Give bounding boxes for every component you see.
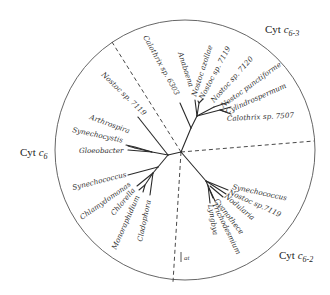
- group-label-cyt-c6-3: Cyt c6-3: [265, 23, 299, 38]
- separator-bottom: [173, 152, 181, 282]
- scale-label: at: [184, 254, 191, 262]
- group-label-cyt-c6-2: Cyt c6-2: [279, 249, 313, 264]
- taxon-calothrix-7507: Calothrix sp. 7507: [227, 110, 295, 123]
- taxon-gloeobacter: Gloeobacter: [79, 146, 124, 155]
- separator-right: [181, 141, 314, 152]
- taxon-calothrix-6303: Calothrix sp. 6303: [141, 34, 182, 97]
- phylogenetic-tree: Calothrix sp. 6303 Nostoc sp. 7119 Arthr…: [0, 0, 330, 295]
- taxon-nostoc-7119-a: Nostoc sp. 7119: [99, 69, 149, 117]
- group-label-cyt-c6: Cyt c6: [20, 146, 48, 161]
